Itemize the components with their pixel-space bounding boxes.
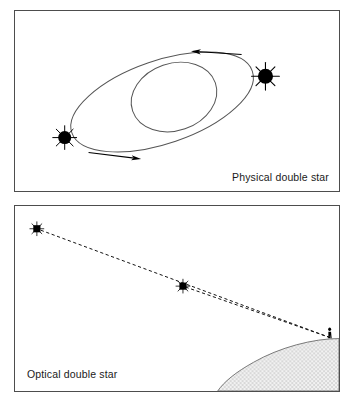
sightline-to-near-star xyxy=(183,286,330,337)
caption-physical-double-star: Physical double star xyxy=(232,172,329,183)
optical-double-star-drawing xyxy=(15,206,339,391)
physical-double-star-drawing xyxy=(15,11,339,191)
star-primary xyxy=(53,126,77,150)
star-far xyxy=(30,222,44,236)
panel-physical-double-star: Physical double star xyxy=(14,10,340,192)
orbit-direction-arrow-bottom xyxy=(89,152,137,158)
caption-optical-double-star: Optical double star xyxy=(27,369,117,380)
large-orbit-ellipse xyxy=(58,32,266,172)
earth-horizon xyxy=(218,339,339,391)
panel-optical-double-star: Optical double star xyxy=(14,205,340,392)
small-orbit-ellipse xyxy=(122,51,227,143)
star-secondary xyxy=(252,62,280,90)
double-star-figure: Physical double star xyxy=(0,0,353,406)
star-near xyxy=(176,279,190,293)
orbit-direction-arrow-top xyxy=(196,52,242,55)
observer-figure xyxy=(328,328,331,339)
